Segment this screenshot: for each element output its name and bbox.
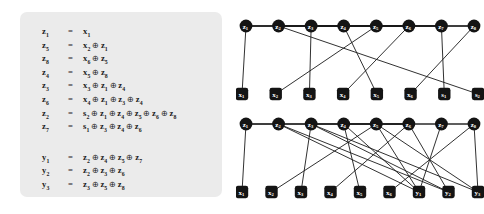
equation-rhs: z2⊕z3⊕z6 bbox=[83, 165, 125, 175]
equation-rhs: x1 bbox=[83, 26, 91, 36]
equation-row: y1=z2⊕z4⊕z5⊕z7 bbox=[42, 152, 177, 166]
graph-node-s1[interactable]: s1 bbox=[438, 88, 450, 100]
equation-lhs: z5 bbox=[42, 40, 68, 50]
graph-node-x1[interactable]: x1 bbox=[236, 186, 248, 198]
equation-block-separator bbox=[42, 135, 177, 152]
graph-node-z5[interactable]: z5 bbox=[370, 118, 383, 131]
graph-top-canvas: z1z2z3z4z5z6z7z8x1x2x3x4x5x6s1s2 bbox=[236, 14, 484, 110]
xor-operator: ⊕ bbox=[107, 180, 117, 189]
equation-lhs: z3 bbox=[42, 80, 68, 90]
equals-sign: = bbox=[68, 152, 83, 162]
xor-operator: ⊕ bbox=[90, 153, 100, 162]
graph-node-z6[interactable]: z6 bbox=[402, 118, 415, 131]
graph-top: z1z2z3z4z5z6z7z8x1x2x3x4x5x6s1s2 bbox=[236, 14, 484, 110]
graph-node-z7[interactable]: z7 bbox=[435, 118, 448, 131]
equation-row: z5=x2⊕z1 bbox=[42, 40, 177, 54]
equation-rhs: x6⊕z5 bbox=[83, 53, 108, 63]
equals-sign: = bbox=[68, 108, 83, 118]
graph-node-y3[interactable]: y3 bbox=[472, 186, 484, 198]
xor-operator: ⊕ bbox=[124, 122, 134, 131]
graph-node-x2[interactable]: x2 bbox=[270, 88, 282, 100]
graph-node-x2[interactable]: x2 bbox=[265, 186, 277, 198]
graph-node-x6[interactable]: x6 bbox=[383, 186, 395, 198]
xor-operator: ⊕ bbox=[107, 109, 117, 118]
xor-operator: ⊕ bbox=[108, 81, 118, 90]
xor-operator: ⊕ bbox=[90, 122, 100, 131]
equation-row: y3=z3⊕z5⊕z8 bbox=[42, 179, 177, 193]
graph-node-z2[interactable]: z2 bbox=[272, 20, 285, 33]
xor-operator: ⊕ bbox=[107, 153, 117, 162]
equation-row: z8=x6⊕z5 bbox=[42, 53, 177, 67]
graph-edge bbox=[344, 124, 419, 192]
equation-row: y2=z2⊕z3⊕z6 bbox=[42, 165, 177, 179]
graph-node-x4[interactable]: x4 bbox=[337, 88, 349, 100]
xor-operator: ⊕ bbox=[91, 68, 101, 77]
equals-sign: = bbox=[68, 26, 83, 36]
graph-node-x6[interactable]: x6 bbox=[404, 88, 416, 100]
figure-root: z1=x1z5=x2⊕z1z8=x6⊕z5z4=x5⊕z8z3=x3⊕z1⊕z4… bbox=[0, 0, 484, 214]
graph-edge bbox=[390, 124, 475, 192]
equation-row: z2=s2⊕z1⊕z4⊕z5⊕z6⊕z8 bbox=[42, 108, 177, 122]
equation-rhs: s2⊕z1⊕z4⊕z5⊕z6⊕z8 bbox=[83, 108, 177, 118]
graph-node-z1[interactable]: z1 bbox=[240, 118, 253, 131]
graph-edge bbox=[276, 26, 377, 94]
equation-lhs: z2 bbox=[42, 108, 68, 118]
graph-node-z5[interactable]: z5 bbox=[370, 20, 383, 33]
equation-lhs: y2 bbox=[42, 165, 68, 175]
equation-lhs: z4 bbox=[42, 67, 68, 77]
graph-edge bbox=[344, 26, 377, 94]
equation-row: z3=x3⊕z1⊕z4 bbox=[42, 80, 177, 94]
graph-node-z8[interactable]: z8 bbox=[468, 20, 481, 33]
graph-node-z4[interactable]: z4 bbox=[337, 20, 350, 33]
graph-edge bbox=[301, 124, 311, 192]
xor-operator: ⊕ bbox=[107, 122, 117, 131]
graph-node-z8[interactable]: z8 bbox=[468, 118, 481, 131]
graph-node-x5[interactable]: x5 bbox=[354, 186, 366, 198]
equation-lhs: z8 bbox=[42, 53, 68, 63]
graph-edge bbox=[279, 26, 478, 94]
equation-rhs: s1⊕z3⊕z4⊕z6 bbox=[83, 121, 142, 131]
graph-edge bbox=[242, 26, 246, 94]
xor-operator: ⊕ bbox=[90, 109, 100, 118]
equation-rhs: x3⊕z1⊕z4 bbox=[83, 80, 125, 90]
graph-node-s2[interactable]: s2 bbox=[472, 88, 484, 100]
graph-node-y1[interactable]: y1 bbox=[413, 186, 425, 198]
equals-sign: = bbox=[68, 121, 83, 131]
graph-node-z1[interactable]: z1 bbox=[240, 20, 253, 33]
graph-edge bbox=[474, 124, 478, 192]
graph-bottom: z1z2z3z4z5z6z7z8x1x2x3x4x5x6y1y2y3 bbox=[236, 112, 484, 208]
equals-sign: = bbox=[68, 40, 83, 50]
graph-node-x5[interactable]: x5 bbox=[371, 88, 383, 100]
graph-node-x4[interactable]: x4 bbox=[324, 186, 336, 198]
graph-node-z2[interactable]: z2 bbox=[272, 118, 285, 131]
equation-row: z7=s1⊕z3⊕z4⊕z6 bbox=[42, 121, 177, 135]
xor-operator: ⊕ bbox=[125, 95, 135, 104]
graph-node-z3[interactable]: z3 bbox=[305, 118, 318, 131]
graph-edge bbox=[242, 124, 246, 192]
graph-node-z7[interactable]: z7 bbox=[435, 20, 448, 33]
graph-bottom-canvas: z1z2z3z4z5z6z7z8x1x2x3x4x5x6y1y2y3 bbox=[236, 112, 484, 208]
graph-node-y2[interactable]: y2 bbox=[442, 186, 454, 198]
graph-node-z3[interactable]: z3 bbox=[305, 20, 318, 33]
graph-node-x3[interactable]: x3 bbox=[303, 88, 315, 100]
equals-sign: = bbox=[68, 80, 83, 90]
xor-operator: ⊕ bbox=[125, 153, 135, 162]
graph-node-z6[interactable]: z6 bbox=[402, 20, 415, 33]
graph-node-x1[interactable]: x1 bbox=[236, 88, 248, 100]
equation-list-z: z1=x1z5=x2⊕z1z8=x6⊕z5z4=x5⊕z8z3=x3⊕z1⊕z4… bbox=[42, 26, 177, 193]
equals-sign: = bbox=[68, 165, 83, 175]
equals-sign: = bbox=[68, 94, 83, 104]
graph-node-z4[interactable]: z4 bbox=[337, 118, 350, 131]
xor-operator: ⊕ bbox=[91, 54, 101, 63]
xor-operator: ⊕ bbox=[124, 109, 134, 118]
graph-edge bbox=[344, 124, 360, 192]
equation-rhs: x4⊕z1⊕z3⊕z4 bbox=[83, 94, 143, 104]
graph-edge bbox=[311, 124, 478, 192]
equation-panel: z1=x1z5=x2⊕z1z8=x6⊕z5z4=x5⊕z8z3=x3⊕z1⊕z4… bbox=[20, 12, 222, 197]
graph-node-x3[interactable]: x3 bbox=[295, 186, 307, 198]
graph-edge bbox=[343, 26, 409, 94]
xor-operator: ⊕ bbox=[159, 109, 169, 118]
equation-rhs: z3⊕z5⊕z8 bbox=[83, 179, 125, 189]
equation-rhs: x2⊕z1 bbox=[83, 40, 108, 50]
graph-edge bbox=[272, 124, 377, 192]
